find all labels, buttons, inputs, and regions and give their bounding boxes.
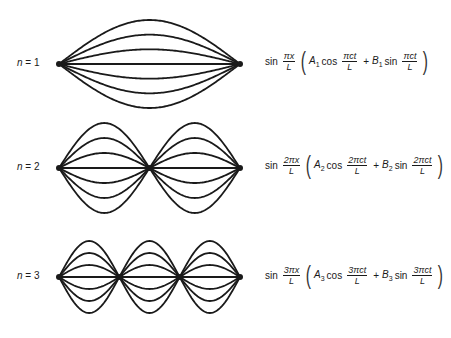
sin-function: sin — [265, 270, 278, 281]
node-point-icon — [56, 274, 62, 280]
label-variable: n — [17, 57, 23, 68]
time-fraction-cos: 3πctL — [347, 265, 367, 286]
coef-symbol: B — [382, 269, 389, 280]
time-fraction-sin: 2πctL — [412, 155, 432, 176]
mode-1-string-envelope — [56, 20, 243, 108]
mode-label-n1: n = 1 — [17, 57, 40, 68]
node-point-icon — [237, 61, 243, 67]
coef-subscript: 3 — [321, 275, 325, 282]
coef-symbol: B — [382, 159, 389, 170]
denominator: L — [407, 62, 412, 72]
denominator: L — [287, 62, 292, 72]
right-paren: ) — [438, 262, 443, 288]
time-fraction-sin: 3πctL — [412, 265, 432, 286]
spatial-fraction: 3πxL — [283, 265, 301, 286]
coef-b: B1 — [372, 55, 383, 68]
coef-subscript: 2 — [389, 165, 393, 172]
numerator: 3πx — [283, 265, 301, 276]
numerator: 2πct — [412, 155, 432, 166]
node-point-icon — [56, 165, 62, 171]
sin-function: sin — [265, 56, 278, 67]
cos-function: cos — [327, 160, 343, 171]
label-value: = 2 — [25, 161, 39, 172]
spatial-fraction: 2πxL — [283, 155, 301, 176]
left-paren: ( — [306, 152, 311, 178]
coef-subscript: 2 — [321, 165, 325, 172]
time-fraction-cos: πctL — [342, 51, 357, 72]
cos-function: cos — [327, 270, 343, 281]
plus-sign: + — [373, 270, 379, 281]
mode-2-string-envelope — [56, 123, 243, 213]
node-point-icon — [116, 274, 122, 280]
denominator: L — [420, 276, 425, 286]
numerator: 2πct — [347, 155, 367, 166]
denominator: L — [355, 276, 360, 286]
time-fraction-sin: πctL — [402, 51, 417, 72]
spatial-fraction: πxL — [283, 51, 296, 72]
coef-symbol: A — [314, 159, 321, 170]
numerator: πct — [342, 51, 357, 62]
coef-a: A2 — [314, 159, 325, 172]
denominator: L — [420, 166, 425, 176]
mode-3-string-envelope — [56, 241, 243, 313]
node-point-icon — [177, 274, 183, 280]
coef-subscript: 1 — [316, 61, 320, 68]
time-fraction-cos: 2πctL — [347, 155, 367, 176]
numerator: πx — [283, 51, 296, 62]
mode-3-formula: sin 3πxL ( A3 cos 3πctL + B3 sin 3πctL ) — [263, 262, 446, 288]
coef-b: B3 — [382, 269, 393, 282]
denominator: L — [289, 166, 294, 176]
plus-sign: + — [363, 56, 369, 67]
cos-function: cos — [322, 56, 338, 67]
sin-function: sin — [395, 160, 408, 171]
label-variable: n — [17, 270, 23, 281]
denominator: L — [355, 166, 360, 176]
left-paren: ( — [306, 262, 311, 288]
denominator: L — [347, 62, 352, 72]
coef-a: A1 — [309, 55, 320, 68]
numerator: 3πct — [412, 265, 432, 276]
coef-symbol: A — [314, 269, 321, 280]
coef-symbol: A — [309, 55, 316, 66]
numerator: 3πct — [347, 265, 367, 276]
sin-function: sin — [385, 56, 398, 67]
label-value: = 3 — [25, 270, 39, 281]
mode-2-formula: sin 2πxL ( A2 cos 2πctL + B2 sin 2πctL ) — [263, 152, 446, 178]
sin-function: sin — [265, 160, 278, 171]
node-point-icon — [147, 165, 153, 171]
left-paren: ( — [301, 48, 306, 74]
right-paren: ) — [423, 48, 428, 74]
numerator: 2πx — [283, 155, 301, 166]
denominator: L — [289, 276, 294, 286]
coef-subscript: 3 — [389, 275, 393, 282]
coef-b: B2 — [382, 159, 393, 172]
mode-1-formula: sin πxL ( A1 cos πctL + B1 sin πctL ) — [263, 48, 431, 74]
numerator: πct — [402, 51, 417, 62]
node-point-icon — [56, 61, 62, 67]
coef-symbol: B — [372, 55, 379, 66]
plus-sign: + — [373, 160, 379, 171]
sin-function: sin — [395, 270, 408, 281]
mode-label-n3: n = 3 — [17, 270, 40, 281]
label-value: = 1 — [25, 57, 39, 68]
mode-label-n2: n = 2 — [17, 161, 40, 172]
node-point-icon — [237, 274, 243, 280]
coef-subscript: 1 — [379, 61, 383, 68]
right-paren: ) — [438, 152, 443, 178]
label-variable: n — [17, 161, 23, 172]
coef-a: A3 — [314, 269, 325, 282]
node-point-icon — [237, 165, 243, 171]
